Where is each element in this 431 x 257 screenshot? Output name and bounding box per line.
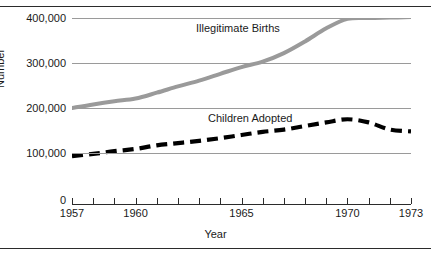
y-axis-tick-label: 400,000	[26, 12, 66, 24]
x-axis-tick	[305, 198, 306, 204]
gridline	[72, 153, 411, 154]
y-axis-title: Number	[0, 49, 6, 88]
x-axis-tick	[390, 198, 391, 204]
y-tick-label-zero: 0	[52, 194, 66, 206]
gridline	[72, 18, 411, 19]
x-axis-tick	[114, 198, 115, 204]
x-axis-tick-label: 1970	[335, 207, 359, 219]
bottom-rule	[0, 248, 431, 249]
x-axis-tick	[72, 198, 73, 204]
series-line-children-adopted	[72, 119, 411, 156]
x-axis-tick	[136, 198, 137, 204]
x-axis-tick	[199, 198, 200, 204]
y-axis-tick-label: 100,000	[26, 147, 66, 159]
x-axis-tick-label: 1957	[60, 207, 84, 219]
y-axis-tick-label: 200,000	[26, 102, 66, 114]
x-axis-tick	[411, 198, 412, 204]
x-axis-tick	[347, 198, 348, 204]
x-axis-tick-label: 1960	[123, 207, 147, 219]
chart-figure: Number 100,000200,000300,000400,000 0 19…	[0, 0, 431, 257]
x-axis-tick	[93, 198, 94, 204]
x-axis-tick	[369, 198, 370, 204]
x-axis-tick	[157, 198, 158, 204]
y-axis-tick-label: 300,000	[26, 57, 66, 69]
plot-area	[72, 18, 411, 198]
x-axis-tick	[220, 198, 221, 204]
x-axis-tick-label: 1965	[229, 207, 253, 219]
x-axis-tick	[242, 198, 243, 204]
gridline	[72, 63, 411, 64]
x-axis-tick	[326, 198, 327, 204]
x-axis-tick-label: 1973	[399, 207, 423, 219]
gridline	[72, 108, 411, 109]
x-axis-line	[72, 204, 411, 205]
series-label-children-adopted: Children Adopted	[208, 112, 292, 124]
series-label-illegitimate-births: Illegitimate Births	[196, 22, 280, 34]
x-axis-tick	[263, 198, 264, 204]
x-axis-title: Year	[0, 228, 431, 240]
x-axis-tick	[178, 198, 179, 204]
top-rule	[0, 6, 431, 7]
x-axis-tick	[284, 198, 285, 204]
